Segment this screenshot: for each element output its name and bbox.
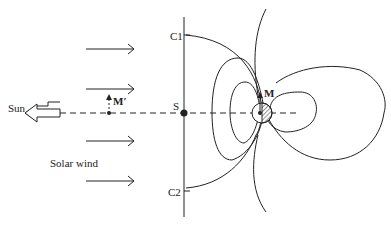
label-m: M [264,88,274,99]
label-m-prime: M′ [113,96,126,107]
solar-wind-arrow-3 [86,136,134,146]
label-c1: C1 [170,31,183,42]
s-point [181,110,188,117]
label-sun: Sun [8,103,25,114]
solar-wind-arrow-4 [86,176,134,186]
label-c2: C2 [168,187,181,198]
solar-wind-arrow-2 [86,84,134,94]
label-s: S [173,101,179,112]
magnetosphere-diagram [0,0,391,226]
m-prime-point [107,111,111,115]
label-solar-wind: Solar wind [50,158,98,169]
solar-wind-arrow-1 [86,44,134,54]
m-point [258,111,262,115]
